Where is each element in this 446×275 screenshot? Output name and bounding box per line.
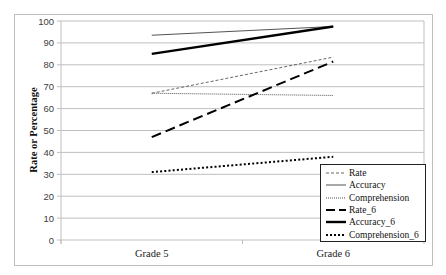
y-tick-label: 60	[43, 103, 54, 114]
legend-label: Accuracy_6	[349, 217, 395, 227]
x-category-label: Grade 5	[135, 248, 169, 259]
data-series	[152, 26, 334, 172]
y-axis-title: Rate or Percentage	[28, 87, 39, 173]
y-tick-label: 90	[43, 37, 54, 48]
series-line-rate	[152, 57, 334, 93]
y-tick-label: 10	[43, 213, 54, 224]
thick-dotted-line-icon	[325, 232, 347, 238]
series-line-comprehension	[152, 93, 334, 95]
x-axis-categories: Grade 5Grade 6	[135, 248, 350, 259]
series-line-rate-6	[152, 62, 334, 138]
legend-label: Rate	[349, 168, 366, 178]
dotted-line-icon	[325, 195, 347, 201]
y-tick-label: 30	[43, 169, 54, 180]
solid-line-icon	[325, 182, 347, 188]
thick-solid-line-icon	[325, 219, 347, 225]
legend-label: Accuracy	[349, 180, 385, 190]
legend-item-rate-6: Rate_6	[325, 204, 421, 216]
legend-label: Comprehension_6	[349, 230, 419, 240]
y-tick-label: 0	[49, 235, 54, 246]
y-tick-label: 100	[38, 16, 54, 27]
legend-label: Comprehension	[349, 193, 409, 203]
dashed-line-icon	[325, 170, 347, 176]
y-tick-label: 70	[43, 81, 54, 92]
chart-legend: Rate Accuracy Comprehension Rate_6 Accur…	[320, 164, 426, 242]
x-category-label: Grade 6	[316, 248, 350, 259]
series-line-comprehension-6	[152, 157, 334, 172]
legend-item-accuracy: Accuracy	[325, 179, 421, 191]
legend-label: Rate_6	[349, 205, 376, 215]
legend-item-comprehension: Comprehension	[325, 192, 421, 204]
y-tick-label: 20	[43, 191, 54, 202]
y-tick-label: 50	[43, 125, 54, 136]
y-axis-ticks: 0102030405060708090100	[38, 16, 54, 246]
legend-item-accuracy-6: Accuracy_6	[325, 216, 421, 228]
legend-item-rate: Rate	[325, 167, 421, 179]
y-tick-label: 80	[43, 59, 54, 70]
legend-item-comprehension-6: Comprehension_6	[325, 228, 421, 240]
thick-dashed-line-icon	[325, 207, 347, 213]
y-tick-label: 40	[43, 147, 54, 158]
